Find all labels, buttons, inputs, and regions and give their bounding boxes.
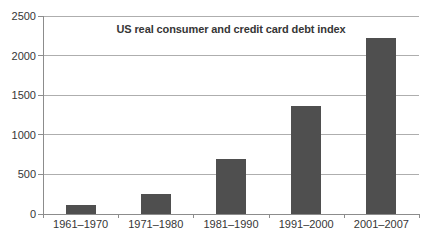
y-axis-label: 2500 xyxy=(4,11,36,22)
y-axis-label: 1500 xyxy=(4,90,36,101)
bar xyxy=(366,38,396,214)
bar xyxy=(291,106,321,214)
gridline xyxy=(43,55,419,56)
y-axis-label: 0 xyxy=(4,209,36,220)
x-axis-label: 1971–1980 xyxy=(118,218,193,230)
bar-chart: US real consumer and credit card debt in… xyxy=(0,0,427,252)
bar xyxy=(66,205,96,214)
x-axis-tick xyxy=(419,214,420,218)
gridline xyxy=(43,16,419,17)
chart-title: US real consumer and credit card debt in… xyxy=(43,23,419,35)
y-axis-line xyxy=(43,16,44,214)
y-axis-label: 500 xyxy=(4,169,36,180)
y-axis-label: 1000 xyxy=(4,130,36,141)
gridline xyxy=(43,95,419,96)
bar xyxy=(216,159,246,214)
y-axis-label: 2000 xyxy=(4,51,36,62)
gridline xyxy=(43,134,419,135)
x-axis-label: 1981–1990 xyxy=(193,218,268,230)
x-axis-label: 1991–2000 xyxy=(269,218,344,230)
x-axis-label: 2001–2007 xyxy=(344,218,419,230)
x-axis-label: 1961–1970 xyxy=(43,218,118,230)
bar xyxy=(141,194,171,214)
